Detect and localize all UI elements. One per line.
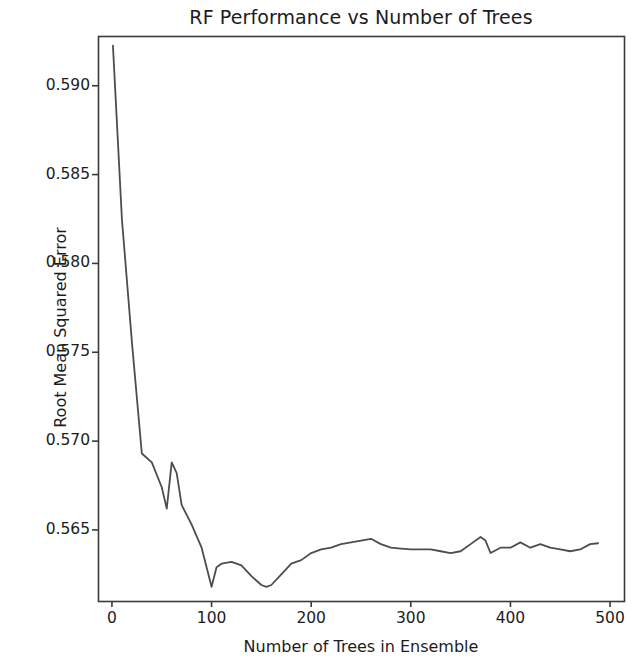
data-line-group xyxy=(113,46,598,587)
data-line xyxy=(113,46,598,587)
tick-marks xyxy=(92,86,610,607)
axes-spines xyxy=(99,37,625,602)
chart-figure: RF Performance vs Number of Trees Root M… xyxy=(0,0,634,667)
plot-canvas xyxy=(0,0,634,667)
axes-frame xyxy=(99,37,625,602)
